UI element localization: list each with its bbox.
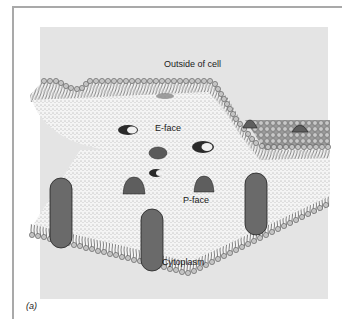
label-cytoplasm: Cytoplasm [162, 257, 205, 267]
e-face-leaflet [30, 78, 331, 160]
label-e-face: E-face [155, 123, 181, 133]
label-p-face: P-face [183, 195, 209, 205]
membrane-diagram [0, 0, 342, 319]
label-outside-of-cell: Outside of cell [164, 59, 221, 69]
figure-panel-label: (a) [26, 301, 37, 311]
